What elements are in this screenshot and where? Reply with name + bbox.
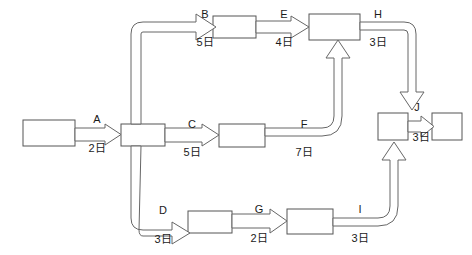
edge-h-label: H	[374, 8, 382, 20]
edge-i-duration: 3日	[351, 232, 368, 244]
edge-f-label: F	[301, 118, 308, 130]
network-diagram-canvas: A B C D E F G H I J 2日 5日 5日 3日 4日 7日 2日…	[0, 0, 472, 255]
edge-j-duration: 3日	[412, 131, 429, 143]
edge-j-label: J	[414, 101, 420, 113]
end-node[interactable]	[432, 113, 462, 140]
edge-i-label: I	[358, 203, 361, 215]
edge-e-label: E	[280, 8, 287, 20]
activity-h-node[interactable]	[309, 14, 360, 40]
edge-f-duration: 7日	[295, 146, 312, 158]
edge-a-duration: 2日	[88, 142, 105, 154]
activity-g-node[interactable]	[287, 209, 333, 234]
edge-c-label: C	[188, 118, 196, 130]
edge-f-arrow[interactable]	[265, 40, 350, 136]
activity-j-node[interactable]	[378, 113, 408, 140]
edge-e-duration: 4日	[275, 36, 292, 48]
activity-d-node[interactable]	[188, 211, 232, 233]
edge-i-arrow[interactable]	[333, 142, 406, 226]
start-node[interactable]	[23, 120, 75, 146]
edge-g-label: G	[255, 203, 264, 215]
activity-b-node[interactable]	[213, 16, 256, 38]
edge-b-arrow[interactable]	[131, 14, 216, 124]
edge-d-duration: 3日	[154, 233, 171, 245]
edge-d-label: D	[159, 204, 167, 216]
edge-c-duration: 5日	[183, 146, 200, 158]
edge-d-arrow[interactable]	[131, 146, 190, 244]
edge-b-label: B	[201, 8, 208, 20]
edge-a-label: A	[93, 113, 101, 125]
activity-c-node[interactable]	[219, 124, 265, 147]
edge-h-duration: 3日	[369, 36, 386, 48]
edge-b-duration: 5日	[196, 36, 213, 48]
hub-node[interactable]	[121, 124, 165, 146]
edge-g-duration: 2日	[250, 232, 267, 244]
network-diagram: A B C D E F G H I J 2日 5日 5日 3日 4日 7日 2日…	[0, 0, 472, 255]
